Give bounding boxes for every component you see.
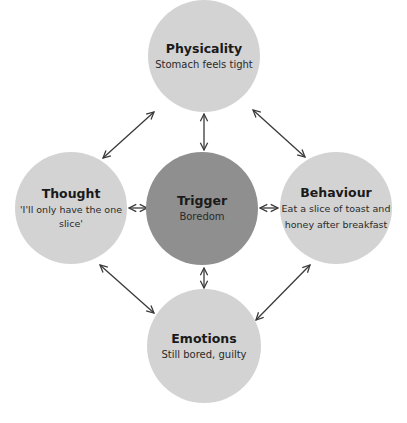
node-emotions: Emotions Still bored, guilty (147, 289, 261, 403)
node-thought-title: Thought (42, 186, 101, 202)
node-physicality-text: Stomach feels tight (155, 58, 253, 72)
node-emotions-title: Emotions (171, 331, 236, 347)
node-behaviour: Behaviour Eat a slice of toast and honey… (280, 152, 392, 264)
node-behaviour-title: Behaviour (300, 185, 371, 201)
node-physicality-title: Physicality (166, 41, 242, 57)
node-thought: Thought 'I'll only have the one slice' (15, 152, 127, 264)
arrow-physicality-behaviour (253, 110, 305, 157)
arrow-behaviour-emotions (256, 265, 310, 320)
node-emotions-text: Still bored, guilty (161, 348, 246, 362)
node-thought-text: 'I'll only have the one slice' (15, 203, 127, 231)
node-behaviour-text-line2: honey after breakfast (285, 218, 388, 232)
node-trigger: Trigger Boredom (146, 152, 258, 265)
node-trigger-title: Trigger (177, 193, 227, 209)
node-trigger-text: Boredom (179, 210, 224, 224)
arrow-thought-physicality (103, 112, 154, 158)
node-physicality: Physicality Stomach feels tight (148, 0, 260, 112)
node-behaviour-text-line1: Eat a slice of toast and (282, 202, 391, 216)
arrow-thought-emotions (100, 265, 154, 313)
